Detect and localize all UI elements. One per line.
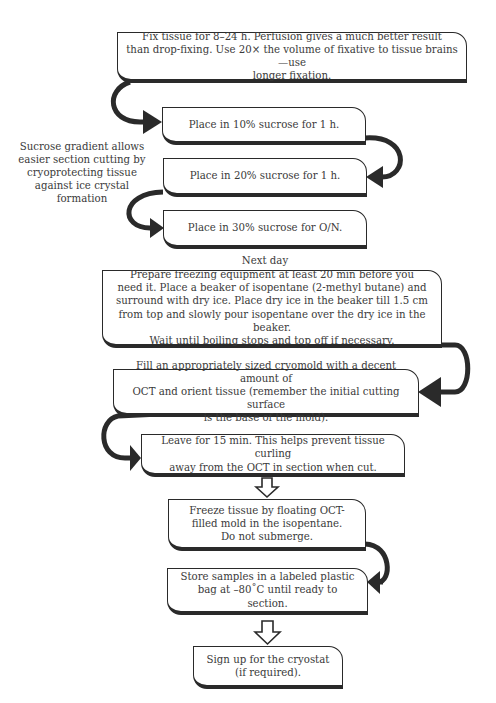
step-text: Prepare freezing equipment at least 20 m… [107, 268, 437, 347]
arrowhead-icon [418, 377, 441, 407]
step-leave-15-min: Leave for 15 min. This helps prevent tis… [141, 434, 405, 477]
step-fill-cryomold: Fill an appropriately sized cryomold wit… [113, 369, 419, 417]
step-store-samples: Store samples in a labeled plastic bag a… [167, 568, 368, 615]
step-text: Fix tissue for 8–24 h. Perfusion gives a… [126, 30, 458, 83]
next-day-label: Next day [200, 254, 330, 267]
hollow-down-arrow-icon [255, 621, 280, 644]
step-sucrose-10: Place in 10% sucrose for 1 h. [162, 107, 366, 145]
step-fix-tissue: Fix tissue for 8–24 h. Perfusion gives a… [117, 32, 467, 83]
arrowhead-icon [130, 445, 141, 471]
step-text: Place in 10% sucrose for 1 h. [189, 118, 340, 131]
arrowhead-icon [150, 218, 164, 238]
step-text: Sign up for the cryostat (if required). [207, 653, 330, 679]
arrowhead-icon [366, 166, 383, 188]
step-sign-up-cryostat: Sign up for the cryostat (if required). [193, 646, 343, 689]
arrowhead-icon [367, 571, 380, 594]
step-text: Fill an appropriately sized cryomold wit… [122, 359, 410, 425]
step-sucrose-30: Place in 30% sucrose for O/N. [163, 210, 367, 249]
step-sucrose-20: Place in 20% sucrose for 1 h. [163, 158, 367, 197]
sucrose-gradient-note: Sucrose gradient allows easier section c… [18, 140, 146, 205]
curved-arrow-fix-to-10 [113, 82, 146, 122]
step-text: Place in 30% sucrose for O/N. [188, 221, 342, 234]
step-freeze-tissue: Freeze tissue by floating OCT- filled mo… [168, 499, 366, 551]
step-text: Freeze tissue by floating OCT- filled mo… [189, 504, 345, 544]
arrowhead-icon [143, 110, 162, 134]
step-text: Place in 20% sucrose for 1 h. [190, 169, 341, 182]
step-text: Store samples in a labeled plastic bag a… [176, 570, 359, 610]
step-prepare-freezing: Prepare freezing equipment at least 20 m… [102, 270, 442, 348]
hollow-down-arrow-icon [256, 478, 278, 497]
step-text: Leave for 15 min. This helps prevent tis… [150, 434, 396, 474]
